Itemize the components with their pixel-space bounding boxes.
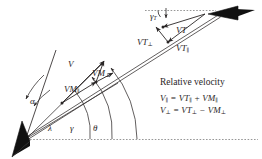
- node-vm-origin: [61, 102, 64, 105]
- vector-label-VM-perp: VM⊥: [92, 69, 110, 79]
- equation-parallel: V∥ = VT∥ + VM∥: [160, 94, 218, 104]
- node-vt-joint: [167, 41, 170, 44]
- vector-arrow-VT-perp: [156, 27, 168, 42]
- vector-label-VT-parallel: VT∥: [176, 44, 189, 54]
- node-vm-joint: [95, 81, 98, 84]
- vector-label-VM-parallel: VM∥: [64, 85, 80, 95]
- own-ship-wedge: [12, 121, 30, 157]
- relative-velocity-title: Relative velocity: [160, 78, 225, 88]
- figure-canvas: γT VT VT⊥ VT∥ V VM⊥ VM∥ α λ γ θ Relative…: [0, 0, 262, 159]
- angle-label-gamma: γ: [70, 124, 74, 133]
- node-vt-tip: [162, 26, 165, 29]
- target-ship-wedge: [208, 6, 238, 20]
- vector-label-V: V: [68, 60, 74, 69]
- angle-label-gamma-T: γT: [150, 12, 157, 22]
- angle-label-lambda: λ: [48, 124, 52, 133]
- angle-label-theta: θ: [93, 124, 97, 133]
- vector-label-VT: VT: [176, 26, 187, 35]
- arc-gamma-T: [158, 11, 161, 18]
- arc-alpha-outer: [26, 75, 44, 99]
- equation-perpendicular: V⊥ = VT⊥ − VM⊥: [160, 106, 226, 116]
- target-ship-wedge-tail: [236, 9, 255, 17]
- angle-label-alpha: α: [30, 97, 35, 106]
- vector-label-VT-perp: VT⊥: [137, 38, 153, 48]
